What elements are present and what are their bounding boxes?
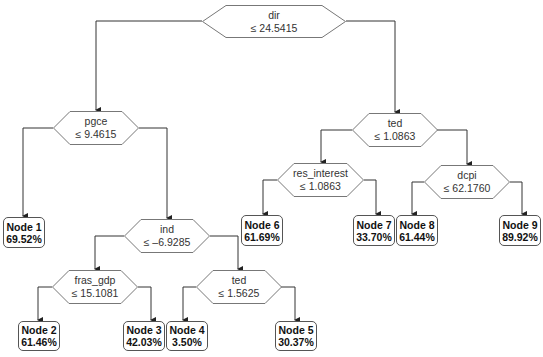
- leaf-label: Node 8: [399, 219, 434, 231]
- leaf-value: 30.37%: [278, 336, 314, 348]
- leaf-label: Node 4: [169, 324, 204, 336]
- decision-node-pgce: pgce ≤ 9.4615: [53, 111, 139, 145]
- decision-node-fras-gdp: fras_gdp ≤ 15.1081: [52, 270, 138, 304]
- leaf-label: Node 2: [21, 324, 56, 336]
- leaf-node-2: Node 2 61.46%: [18, 321, 60, 351]
- decision-node-ted-2: ted ≤ 1.5625: [196, 270, 282, 304]
- node-condition: ≤ 62.1760: [444, 182, 491, 195]
- leaf-node-4: Node 4 3.50%: [166, 321, 208, 351]
- node-variable: ted: [232, 274, 247, 287]
- decision-node-dir: dir ≤ 24.5415: [202, 5, 346, 38]
- leaf-value: 69.52%: [6, 233, 42, 245]
- leaf-value: 33.70%: [356, 231, 392, 243]
- leaf-value: 42.03%: [126, 336, 162, 348]
- leaf-label: Node 5: [278, 324, 313, 336]
- leaf-value: 61.46%: [21, 336, 57, 348]
- decision-node-ind: ind ≤ –6.9285: [124, 219, 210, 253]
- node-condition: ≤ –6.9285: [144, 236, 191, 249]
- node-variable: res_interest: [293, 167, 348, 180]
- leaf-node-8: Node 8 61.44%: [396, 215, 438, 246]
- node-condition: ≤ 9.4615: [76, 128, 117, 141]
- decision-node-ted: ted ≤ 1.0863: [352, 113, 438, 147]
- leaf-value: 3.50%: [172, 336, 202, 348]
- node-condition: ≤ 1.0863: [300, 180, 341, 193]
- node-variable: pgce: [85, 115, 108, 128]
- node-variable: dcpi: [457, 169, 476, 182]
- leaf-label: Node 3: [126, 324, 161, 336]
- node-variable: ted: [388, 117, 403, 130]
- leaf-value: 61.44%: [399, 231, 435, 243]
- leaf-label: Node 6: [244, 219, 279, 231]
- node-condition: ≤ 1.5625: [219, 287, 260, 300]
- leaf-node-7: Node 7 33.70%: [353, 215, 395, 246]
- leaf-value: 61.69%: [244, 231, 280, 243]
- leaf-node-1: Node 1 69.52%: [3, 217, 45, 248]
- leaf-node-3: Node 3 42.03%: [123, 321, 165, 351]
- node-condition: ≤ 1.0863: [375, 130, 416, 143]
- decision-node-dcpi: dcpi ≤ 62.1760: [424, 165, 510, 199]
- leaf-label: Node 7: [356, 219, 391, 231]
- leaf-node-9: Node 9 89.92%: [499, 215, 541, 246]
- node-variable: fras_gdp: [75, 274, 116, 287]
- leaf-label: Node 1: [6, 221, 41, 233]
- leaf-node-6: Node 6 61.69%: [241, 215, 283, 246]
- leaf-node-5: Node 5 30.37%: [275, 321, 317, 351]
- node-variable: dir: [268, 9, 280, 22]
- decision-node-res-interest: res_interest ≤ 1.0863: [277, 163, 364, 197]
- leaf-label: Node 9: [502, 219, 537, 231]
- leaf-value: 89.92%: [502, 231, 538, 243]
- node-variable: ind: [160, 223, 174, 236]
- node-condition: ≤ 24.5415: [251, 22, 298, 35]
- node-condition: ≤ 15.1081: [72, 287, 119, 300]
